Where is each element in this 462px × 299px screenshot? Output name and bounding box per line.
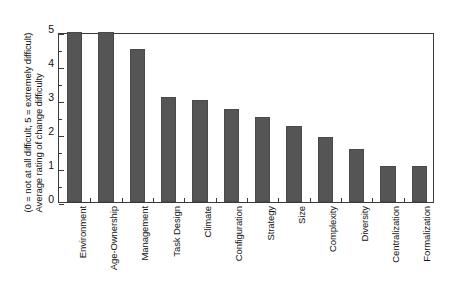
bar: [192, 100, 208, 202]
x-axis-tick-label: Management: [140, 206, 150, 260]
x-axis-tick-label: Diversity: [360, 206, 370, 242]
x-axis-tick-label: Climate: [203, 206, 213, 238]
x-axis-tick-label: Size: [297, 206, 307, 224]
y-axis-tick-label: 4: [48, 58, 54, 69]
bar: [349, 149, 365, 202]
bar: [224, 109, 240, 203]
y-axis-tick-label: 1: [48, 160, 54, 171]
y-axis-tick-label: 3: [48, 92, 54, 103]
bar: [255, 117, 271, 202]
bar: [67, 32, 83, 202]
bar: [286, 126, 302, 203]
y-axis-tick-label: 0: [48, 194, 54, 205]
y-axis-tick-label: 2: [48, 126, 54, 137]
y-tick-major: [59, 204, 64, 205]
y-axis-tick-label: 5: [48, 24, 54, 35]
bar: [318, 137, 334, 202]
y-axis-tick-labels: 012345: [38, 28, 54, 204]
bar: [412, 166, 428, 202]
x-axis-tick-labels: EnvironmentAge-OwnershipManagementTask D…: [58, 206, 434, 298]
bar-series: [59, 34, 433, 202]
plot-area: [58, 33, 434, 203]
bar: [161, 97, 177, 202]
x-axis-tick-label: Age-Ownership: [109, 206, 119, 270]
x-axis-tick-label: Strategy: [266, 206, 276, 241]
y-axis-label-line2: (0 = not at all difficult, 5 = extremely…: [23, 32, 33, 212]
x-axis-tick-label: Environment: [78, 206, 88, 258]
bar: [380, 166, 396, 202]
bar: [98, 32, 114, 202]
x-axis-tick-label: Task Design: [172, 206, 182, 257]
x-axis-tick-label: Configuration: [234, 206, 244, 261]
x-axis-tick-label: Centralization: [391, 206, 401, 263]
bar: [130, 49, 146, 202]
bar-chart-figure: Average rating of change difficulty (0 =…: [0, 0, 462, 299]
x-axis-tick-label: Complexity: [328, 206, 338, 252]
x-axis-tick-label: Formalization: [422, 206, 432, 262]
